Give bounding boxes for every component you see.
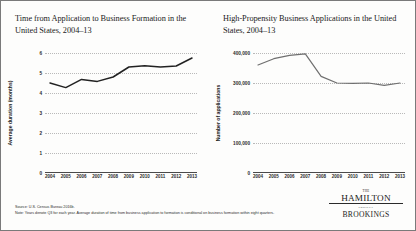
footnotes: Source: U.S. Census Bureau 2016b. Note: … [15,205,305,216]
y-axis-tick-label: 0 [247,171,250,176]
x-axis-ticks-left: 2004200520062007200820092010201120122013 [45,174,197,184]
note-line: Note: Years denote Q3 for each year. Ave… [15,211,305,216]
plot-area-left: Average duration (months) 0123456 200420… [45,53,197,173]
series-polyline [50,58,192,88]
logo-hamilton: HAMILTON [329,193,403,205]
y-axis-tick-label: 2 [39,131,42,136]
y-axis-label-left: Average duration (months) [7,53,17,173]
y-axis-tick-label: 0 [39,171,42,176]
logo-brookings: BROOKINGS [329,210,403,219]
x-axis-line-right [253,172,405,173]
x-axis-tick-label: 2007 [300,174,310,179]
series-polyline [258,54,400,86]
y-axis-tick-label: 6 [39,51,42,56]
x-axis-tick-label: 2010 [348,174,358,179]
x-axis-tick-label: 2011 [156,174,166,179]
x-axis-tick-label: 2012 [379,174,389,179]
data-line-left [45,53,197,173]
chart-panel-left: Time from Application to Business Format… [1,1,209,231]
x-axis-tick-label: 2013 [187,174,197,179]
x-axis-tick-label: 2006 [77,174,87,179]
page-title-left: Time from Application to Business Format… [15,13,197,36]
x-axis-tick-label: 2007 [92,174,102,179]
y-axis-tick-label: 200,000 [233,111,250,116]
x-axis-ticks-right: 2004200520062007200820092010201120122013 [253,174,405,184]
y-axis-tick-label: 5 [39,71,42,76]
x-axis-tick-label: 2006 [285,174,295,179]
x-axis-tick-label: 2008 [316,174,326,179]
y-axis-tick-label: 400,000 [233,51,250,56]
x-axis-tick-label: 2004 [253,174,263,179]
x-axis-tick-label: 2005 [269,174,279,179]
y-axis-tick-label: 3 [39,111,42,116]
logo-project: PROJECT [329,205,403,209]
x-axis-tick-label: 2004 [45,174,55,179]
y-axis-tick-label: 100,000 [233,141,250,146]
x-axis-tick-label: 2012 [171,174,181,179]
data-line-right [253,53,405,173]
y-axis-tick-label: 300,000 [233,81,250,86]
page-title-right: High-Propensity Business Applications in… [223,13,405,36]
x-axis-tick-label: 2005 [61,174,71,179]
y-axis-tick-label: 4 [39,91,42,96]
y-axis-tick-label: 1 [39,151,42,156]
y-axis-label-right: Number of applications [215,53,225,173]
hamilton-project-brookings-logo: THE HAMILTON PROJECT BROOKINGS [329,189,403,220]
x-axis-tick-label: 2011 [364,174,374,179]
x-axis-tick-label: 2010 [140,174,150,179]
x-axis-tick-label: 2008 [108,174,118,179]
figure-container: Time from Application to Business Format… [0,0,416,231]
x-axis-line-left [45,172,197,173]
plot-area-right: Number of applications 0100,000200,00030… [253,53,405,173]
x-axis-tick-label: 2009 [332,174,342,179]
x-axis-tick-label: 2009 [124,174,134,179]
x-axis-tick-label: 2013 [395,174,405,179]
